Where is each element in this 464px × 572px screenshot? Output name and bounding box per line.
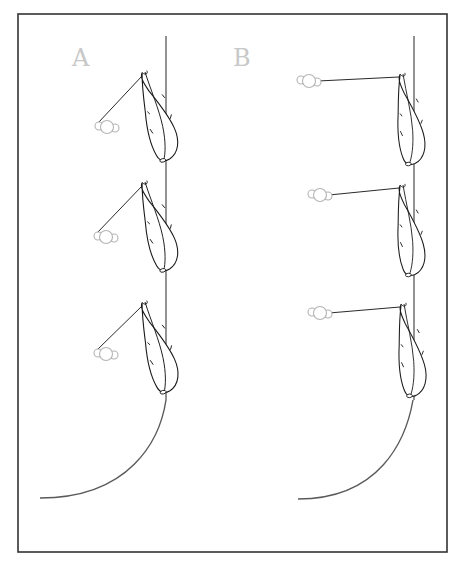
panel-a-unit-2: [94, 177, 182, 274]
panel-b-unit-3: [308, 302, 428, 398]
feather-icon: [136, 297, 182, 395]
string-line: [329, 188, 399, 195]
bead-weight-icon: [308, 189, 332, 202]
panel-b-unit-1: [297, 72, 426, 166]
bead-weight-icon: [95, 121, 119, 134]
panel-b-label: B: [233, 44, 251, 72]
panel-b: B: [233, 36, 428, 499]
string-line: [318, 77, 399, 81]
bead-weight-icon: [94, 348, 118, 361]
panel-a-label: A: [71, 44, 90, 72]
bead-weight-icon: [297, 75, 321, 88]
string-line: [97, 186, 142, 233]
string-line: [98, 76, 142, 123]
string-line: [97, 306, 142, 350]
feather-icon: [136, 67, 182, 164]
feather-icon: [394, 183, 426, 277]
panel-a-unit-3: [94, 297, 182, 395]
feather-icon: [136, 177, 182, 274]
feather-icon: [394, 72, 426, 166]
bead-weight-icon: [94, 231, 118, 244]
string-line: [329, 307, 400, 313]
feather-pendulum-diagram: A B: [0, 0, 464, 572]
panel-a: A: [40, 36, 182, 498]
panel-b-unit-2: [308, 183, 426, 277]
bead-weight-icon: [308, 307, 332, 320]
panel-b-trajectory-arc: [298, 400, 413, 499]
panel-a-unit-1: [95, 67, 182, 164]
feather-icon: [395, 302, 427, 398]
panel-a-trajectory-arc: [40, 400, 166, 498]
figure-frame: [18, 14, 447, 552]
